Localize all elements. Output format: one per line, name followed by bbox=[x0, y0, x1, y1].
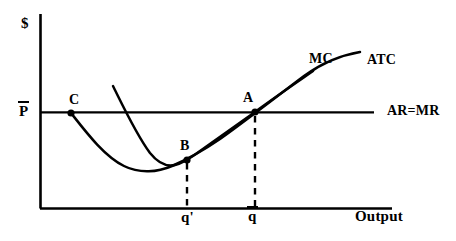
ar-mr-curve-label: AR=MR bbox=[387, 104, 440, 118]
x-tick-label-q-bar-text: q bbox=[248, 209, 257, 224]
point-marker-c bbox=[67, 109, 74, 116]
point-label-b: B bbox=[180, 139, 190, 153]
y-axis-label: $ bbox=[21, 16, 29, 31]
point-label-c: C bbox=[69, 93, 79, 107]
point-marker-b bbox=[183, 156, 190, 163]
mc-curve-label: MC bbox=[309, 52, 333, 66]
x-tick-label-q-prime: q' bbox=[181, 210, 194, 225]
x-axis-label: Output bbox=[355, 209, 403, 224]
price-axis-label: P bbox=[19, 104, 28, 119]
point-marker-a bbox=[251, 108, 258, 115]
point-label-a: A bbox=[243, 91, 253, 105]
mc-curve bbox=[113, 71, 313, 166]
x-tick-label-q-bar: q bbox=[248, 209, 257, 224]
economics-cost-curve-figure: $ Output P MC ATC AR=MR A B C q' q bbox=[0, 0, 456, 241]
plot-canvas bbox=[0, 0, 456, 241]
atc-curve-label: ATC bbox=[367, 53, 396, 67]
price-axis-label-text: P bbox=[19, 104, 28, 119]
